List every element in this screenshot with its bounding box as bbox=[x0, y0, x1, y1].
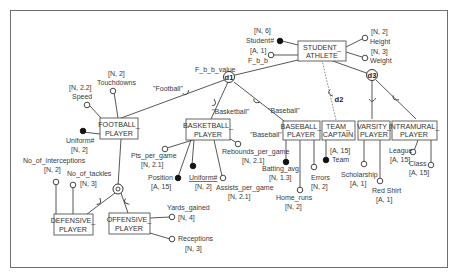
pts-per-game-name: Pts_per_game bbox=[131, 152, 177, 160]
svg-text:CAPTAIN: CAPTAIN bbox=[323, 130, 354, 139]
attribute-icon-tackles bbox=[70, 182, 76, 188]
key-attribute-icon-bb-uniform bbox=[190, 163, 196, 169]
line-receptions bbox=[150, 233, 170, 239]
entity-baseball-player: BASEBALL_ PLAYER bbox=[281, 121, 323, 140]
subset-basketball bbox=[211, 99, 217, 107]
svg-text:PLAYER: PLAYER bbox=[115, 224, 143, 233]
bb-uniform-domain: [N, 2] bbox=[195, 183, 212, 191]
league-name: League bbox=[389, 147, 412, 155]
red-shirt-domain: [A, 1] bbox=[376, 196, 392, 204]
class-domain: [A, 15] bbox=[409, 169, 429, 177]
speed-domain: [N, 2.2] bbox=[69, 84, 92, 92]
subset-defensive bbox=[96, 198, 103, 206]
fb-uniform-domain: [N, 2] bbox=[71, 146, 88, 154]
fb-uniform-name: Uniform# bbox=[66, 137, 95, 144]
eer-diagram: d1 d3 d2 STUDENT_ ATHLETE FOOTBALL_ PLAY… bbox=[0, 0, 456, 277]
rebounds-name: Rebounds_per_game bbox=[222, 148, 289, 156]
team-name: Team bbox=[332, 156, 349, 163]
line-athlete-captain bbox=[322, 60, 336, 120]
line-yards-gained bbox=[150, 217, 170, 218]
attribute-icon-home-runs bbox=[297, 187, 303, 193]
line-o-offensive bbox=[121, 193, 128, 213]
d1-label: d1 bbox=[225, 73, 234, 82]
subset-varsity bbox=[369, 98, 376, 101]
attribute-icon-interceptions bbox=[53, 179, 59, 185]
d2-label: d2 bbox=[335, 95, 344, 104]
assists-domain: [N, 2.1] bbox=[228, 193, 251, 201]
receptions-name: Receptions bbox=[178, 235, 214, 243]
attribute-icon-weight bbox=[362, 55, 368, 61]
attribute-icon-touchdowns bbox=[110, 88, 116, 94]
line-bb-uniform bbox=[192, 140, 194, 165]
entity-varsity-player: VARSITY_ PLAYER bbox=[357, 121, 392, 140]
errors-domain: [N, 2] bbox=[311, 183, 328, 191]
key-attribute-icon-student-num bbox=[277, 38, 283, 44]
predicate-basketball: "Basketball" bbox=[212, 108, 250, 115]
assists-name: Assists_per_game bbox=[216, 184, 274, 192]
weight-name: Weight bbox=[370, 57, 392, 65]
attribute-icon-f-b-b bbox=[268, 52, 274, 58]
predicate-baseball-1: "Baseball" bbox=[268, 107, 300, 114]
yards-gained-name: Yards_gained bbox=[167, 204, 210, 212]
touchdowns-domain: [N, 2] bbox=[108, 70, 125, 78]
attribute-icon-height bbox=[362, 35, 368, 41]
entity-defensive-player: DEFENSIVE_ PLAYER bbox=[51, 214, 97, 235]
line-athlete-d3 bbox=[330, 60, 372, 75]
svg-text:PLAYER: PLAYER bbox=[59, 225, 87, 234]
svg-text:DEFENSIVE_: DEFENSIVE_ bbox=[51, 216, 97, 225]
attribute-icon-speed bbox=[84, 102, 90, 108]
svg-text:PLAYER: PLAYER bbox=[287, 130, 315, 139]
key-attribute-icon-position bbox=[175, 175, 181, 181]
batting-avg-name: Batting_avg bbox=[262, 165, 299, 173]
pts-per-game-domain: [N, 2.1] bbox=[141, 161, 164, 169]
svg-text:FOOTBALL_: FOOTBALL_ bbox=[98, 120, 141, 129]
line-student-num bbox=[282, 41, 298, 45]
line-assists bbox=[214, 140, 222, 176]
red-shirt-name: Red Shirt bbox=[372, 187, 401, 194]
position-name: Position bbox=[148, 174, 173, 181]
line-position bbox=[178, 140, 191, 177]
f-b-b-name: F_b_b bbox=[248, 57, 268, 65]
yards-gained-domain: [N, 4] bbox=[178, 214, 195, 222]
weight-domain: [N, 3] bbox=[371, 48, 388, 56]
position-domain: [A, 15] bbox=[151, 183, 171, 191]
line-football-o bbox=[118, 139, 121, 186]
svg-text:PLAYER: PLAYER bbox=[105, 129, 133, 138]
rebounds-domain: [N, 2.1] bbox=[242, 157, 265, 165]
predicate-football: "Football" bbox=[153, 85, 183, 92]
scholarship-domain: [A, 1] bbox=[350, 180, 366, 188]
svg-text:BASKETBALL_: BASKETBALL_ bbox=[183, 121, 234, 130]
errors-name: Errors bbox=[311, 174, 331, 181]
student-num-domain: [N, 6] bbox=[254, 27, 271, 35]
predicate-baseball-2: "Baseball" bbox=[250, 131, 282, 138]
attribute-icon-errors bbox=[311, 164, 317, 170]
home-runs-name: Home_runs bbox=[276, 194, 313, 202]
attribute-icon-scholarship bbox=[361, 161, 367, 167]
entity-intramural-player: INTRAMURAL_ PLAYER bbox=[389, 121, 441, 140]
bb-uniform-name: Uniform# bbox=[189, 174, 218, 181]
tackles-name: No_of_tackles bbox=[67, 170, 112, 178]
entity-basketball-player: BASKETBALL_ PLAYER bbox=[183, 119, 234, 140]
key-attribute-icon-fb-uniform bbox=[80, 128, 86, 134]
interceptions-domain: [N, 2] bbox=[44, 166, 61, 174]
key-attribute-icon-batting-avg bbox=[283, 159, 289, 165]
svg-text:PLAYER: PLAYER bbox=[360, 130, 388, 139]
tackles-domain: [N, 3] bbox=[80, 180, 97, 188]
entity-offensive-player: OFFENSIVE_ PLAYER bbox=[107, 213, 153, 234]
line-speed bbox=[90, 106, 101, 118]
key-attribute-icon-team bbox=[323, 157, 329, 163]
svg-text:PLAYER: PLAYER bbox=[194, 130, 222, 139]
f-b-b-domain: [A, 1] bbox=[250, 47, 266, 55]
d3-label: d3 bbox=[368, 71, 377, 80]
speed-name: Speed bbox=[72, 93, 92, 101]
home-runs-domain: [N, 2] bbox=[285, 203, 302, 211]
league-domain: [A, 15] bbox=[390, 156, 410, 164]
line-weight bbox=[346, 52, 362, 57]
subset-offensive bbox=[123, 198, 129, 206]
class-name: Class bbox=[409, 160, 427, 167]
attribute-icon-pts-per-game bbox=[162, 146, 168, 152]
height-name: Height bbox=[370, 38, 390, 46]
attribute-icon-assists bbox=[220, 175, 226, 181]
interceptions-name: No_of_interceptions bbox=[23, 157, 86, 165]
student-num-name: Student# bbox=[246, 37, 274, 44]
